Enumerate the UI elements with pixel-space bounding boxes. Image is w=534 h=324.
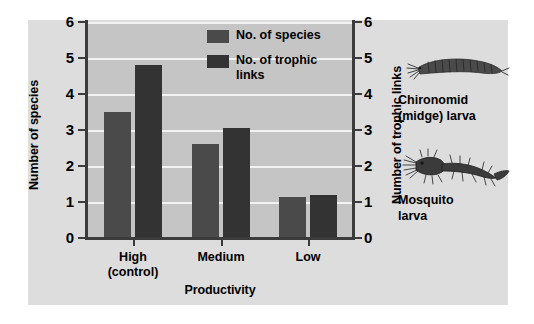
y-axis-left-tick [78,21,85,23]
y-axis-left-tick-label: 2 [58,158,74,173]
bar-species-medium [192,144,219,238]
y-axis-left-tick [78,165,85,167]
organism-chironomid-caption: Chironomid (midge) larva [398,93,510,124]
y-axis-right-tick [355,93,362,95]
y-axis-left-tick-label: 6 [58,14,74,29]
y-axis-right-tick [355,165,362,167]
organism-chironomid: Chironomid (midge) larva [398,48,510,124]
y-axis-left-tick-label: 3 [58,122,74,137]
y-axis-right-tick-label: 0 [364,230,380,245]
y-axis-left-tick [78,129,85,131]
chironomid-larva-icon [398,48,510,90]
y-axis-left-tick [78,93,85,95]
x-axis-category-low-line1: Low [257,250,359,265]
y-axis-right-tick [355,57,362,59]
y-axis-right-tick-label: 2 [364,158,380,173]
legend-item-trophic-links: No. of trophic links [207,53,341,84]
y-axis-left-tick [78,57,85,59]
y-axis-left-tick-label: 4 [58,86,74,101]
mosquito-larva-icon [398,148,510,190]
organism-chironomid-caption-line1: Chironomid [398,93,510,109]
bar-links-low [310,195,337,238]
y-axis-left-tick-label: 5 [58,50,74,65]
y-axis-right-tick [355,237,362,239]
bar-links-high [135,65,162,238]
x-axis-title: Productivity [87,283,353,297]
x-axis-tick [133,238,135,246]
legend-label-trophic-links: No. of trophic links [236,53,341,84]
organism-mosquito-caption-line2: larva [398,209,510,225]
x-axis-category-low: Low [257,250,359,265]
x-axis-tick [221,238,223,246]
y-axis-right-tick-label: 4 [364,86,380,101]
x-axis-tick [308,238,310,246]
y-axis-left-tick [78,237,85,239]
x-axis-category-high: High (control) [82,250,184,281]
y-axis-left-title: Number of species [27,55,41,215]
x-axis-category-high-line2: (control) [82,265,184,280]
y-axis-right-tick-label: 5 [364,50,380,65]
x-axis-category-high-line1: High [82,250,184,265]
legend-swatch-species-icon [207,30,229,43]
organism-chironomid-caption-line2: (midge) larva [398,109,510,125]
figure: Number of species Number of trophic link… [0,0,534,324]
bar-species-high [104,112,131,238]
organism-mosquito: Mosquito larva [398,148,510,224]
y-axis-right-tick [355,129,362,131]
legend: No. of species No. of trophic links [207,28,341,93]
y-axis-left-tick [78,201,85,203]
legend-label-species: No. of species [236,28,321,44]
gridline [87,22,353,24]
gridline [87,94,353,96]
organism-mosquito-caption-line1: Mosquito [398,193,510,209]
legend-item-species: No. of species [207,28,341,44]
y-axis-right-tick [355,21,362,23]
y-axis-left-tick-label: 1 [58,194,74,209]
organism-mosquito-caption: Mosquito larva [398,193,510,224]
x-axis-spine [85,237,355,240]
y-axis-right-tick-label: 3 [364,122,380,137]
y-axis-left-tick-label: 0 [58,230,74,245]
y-axis-left-spine [85,20,88,240]
bar-species-low [279,197,306,238]
y-axis-right-tick-label: 1 [364,194,380,209]
y-axis-right-tick-label: 6 [364,14,380,29]
y-axis-right-tick [355,201,362,203]
legend-swatch-trophic-links-icon [207,55,229,68]
bar-links-medium [223,128,250,238]
